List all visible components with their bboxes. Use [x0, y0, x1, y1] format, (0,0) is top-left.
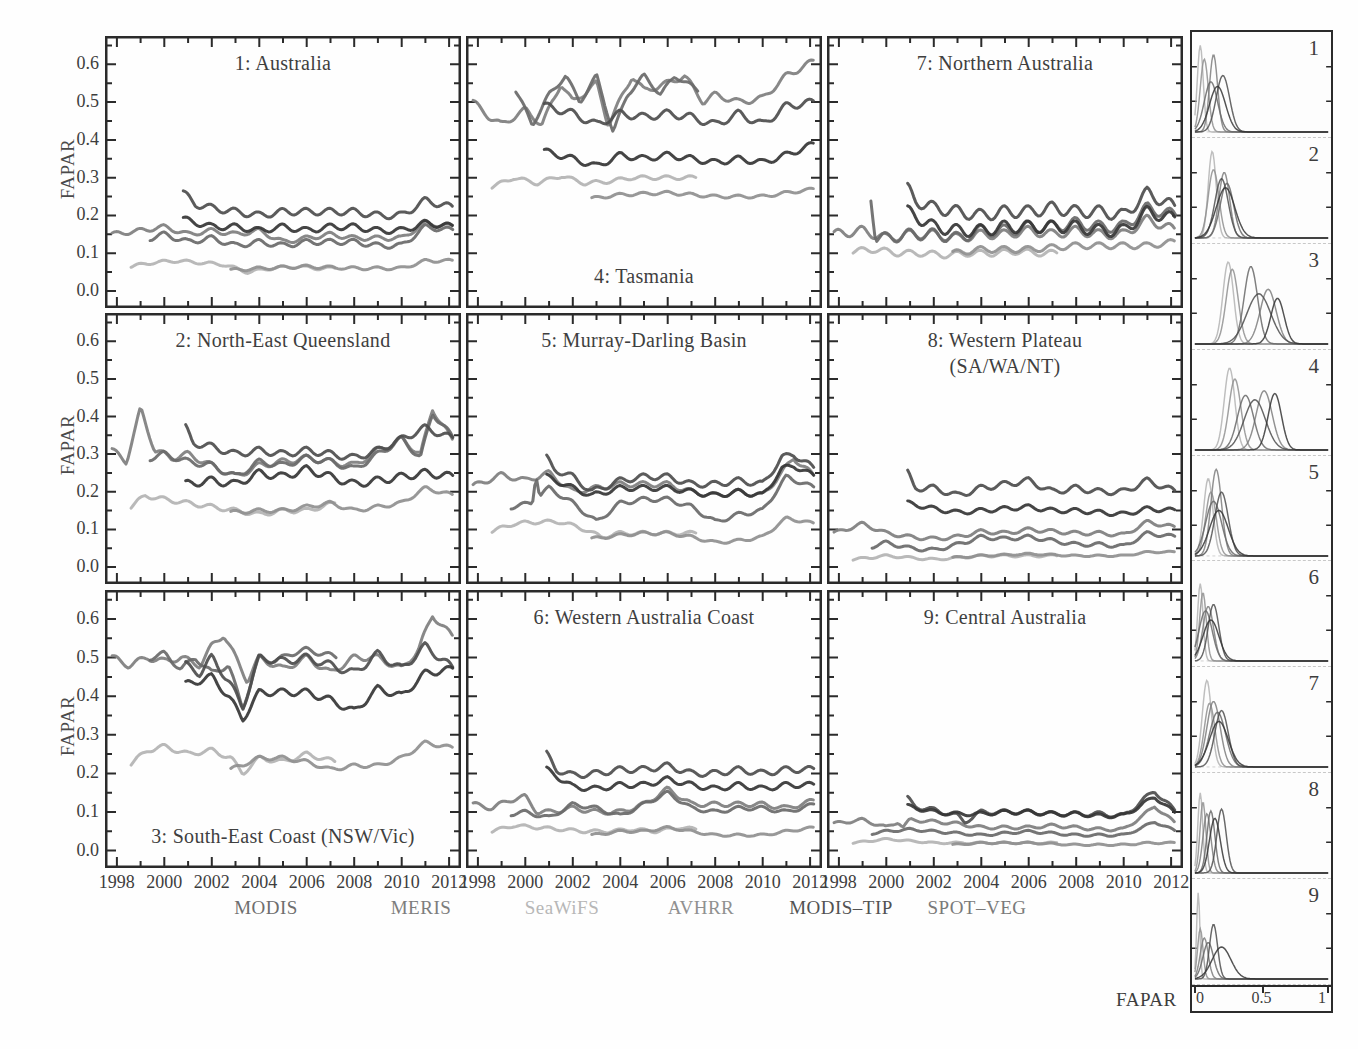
density-panel-6: 6	[1192, 561, 1331, 667]
series-MODIS-TIP	[908, 501, 1175, 516]
series-MERIS	[592, 517, 814, 543]
timeseries-panel-5-murray-darling: 5: Murray-Darling Basin	[466, 313, 822, 584]
density-panel-number: 2	[1309, 142, 1320, 167]
series-MODIS-TIP	[186, 667, 453, 722]
series-MERIS	[953, 842, 1175, 846]
timeseries-plot	[105, 313, 461, 584]
timeseries-panel-2-ne-queensland: 2: North-East Queensland	[105, 313, 461, 584]
timeseries-plot	[466, 590, 822, 868]
x-tick-label: 2004	[233, 872, 285, 893]
y-tick-label: 0.2	[59, 204, 99, 225]
series-MODIS-TIP	[547, 767, 814, 791]
density-curve-MERIS	[1195, 59, 1328, 132]
density-curve-SPOT-VEG	[1195, 943, 1328, 979]
legend-item-modis-tip: MODIS–TIP	[789, 897, 893, 919]
timeseries-plot	[827, 313, 1183, 584]
series-MERIS	[231, 487, 452, 514]
density-xtick-1: 1	[1318, 989, 1326, 1007]
y-tick-label: 0.1	[59, 242, 99, 263]
density-xtick-05: 0.5	[1252, 989, 1272, 1007]
legend-item-avhrr: AVHRR	[668, 897, 735, 919]
density-curve-MODIS-TIP	[1195, 188, 1328, 238]
density-curve-AVHRR	[1195, 55, 1328, 132]
series-MODIS	[183, 191, 452, 219]
series-SPOT-VEG	[872, 532, 1175, 551]
timeseries-plot	[827, 590, 1183, 868]
density-curve-SeaWiFS	[1195, 584, 1328, 661]
series-AVHRR	[473, 460, 813, 497]
density-panel-2: 2	[1192, 138, 1331, 244]
series-SeaWiFS	[492, 520, 696, 538]
density-curve-AVHRR	[1195, 938, 1328, 979]
timeseries-panel-8-western-plateau: 8: Western Plateau (SA/WA/NT)	[827, 313, 1183, 584]
density-x-axis: 0 0.5 1	[1192, 985, 1331, 1011]
series-AVHRR	[112, 617, 452, 682]
tick-1	[1327, 987, 1329, 993]
series-MODIS-TIP	[183, 217, 452, 234]
series-MODIS	[547, 751, 814, 777]
timeseries-plot	[105, 590, 461, 868]
y-tick-label: 0.0	[59, 556, 99, 577]
density-curve-AVHRR	[1195, 814, 1328, 873]
timeseries-plot	[105, 36, 461, 308]
x-tick-label: 2006	[642, 872, 694, 893]
series-MERIS	[592, 826, 814, 836]
series-AVHRR	[834, 215, 1174, 241]
density-x-axis-label: FAPAR	[1116, 989, 1177, 1011]
sensor-legend: MODIS MERIS SeaWiFS AVHRR MODIS–TIP SPOT…	[0, 897, 1190, 925]
x-tick-label: 2004	[955, 872, 1007, 893]
timeseries-panel-9-central-australia: 9: Central Australia	[827, 590, 1183, 868]
x-tick-label: 2002	[547, 872, 599, 893]
x-tick-label: 2008	[1050, 872, 1102, 893]
timeseries-plot	[466, 313, 822, 584]
density-strip: 1 2 3 4 5 6 7 8 9 0 0.5 1	[1190, 30, 1333, 1013]
y-tick-label: 0.0	[59, 840, 99, 861]
density-panel-number: 6	[1309, 565, 1320, 590]
x-tick-label: 2000	[499, 872, 551, 893]
series-MODIS	[908, 793, 1175, 824]
x-tick-label: 2008	[328, 872, 380, 893]
x-tick-label: 2000	[860, 872, 912, 893]
y-tick-label: 0.6	[59, 330, 99, 351]
density-curve-MODIS	[1195, 925, 1328, 979]
series-AVHRR	[112, 409, 452, 475]
series-SeaWiFS	[131, 260, 335, 273]
series-MODIS-TIP	[186, 466, 453, 487]
x-tick-label: 2002	[186, 872, 238, 893]
series-MERIS	[231, 259, 452, 270]
density-curve-MERIS	[1195, 379, 1328, 450]
density-curve-SPOT-VEG	[1195, 713, 1328, 768]
density-panel-number: 8	[1309, 777, 1320, 802]
x-tick-label: 1998	[452, 872, 504, 893]
density-curve-MODIS	[1195, 711, 1328, 767]
timeseries-plot	[827, 36, 1183, 308]
y-tick-label: 0.1	[59, 518, 99, 539]
density-panel-number: 9	[1309, 883, 1320, 908]
timeseries-panel-6-wa-coast: 6: Western Australia Coast	[466, 590, 822, 868]
series-AVHRR	[473, 60, 813, 125]
y-tick-label: 0.5	[59, 647, 99, 668]
density-panel-7: 7	[1192, 667, 1331, 773]
x-tick-label: 2008	[689, 872, 741, 893]
density-xtick-0: 0	[1196, 989, 1204, 1007]
legend-item-modis: MODIS	[234, 897, 298, 919]
legend-item-meris: MERIS	[391, 897, 452, 919]
y-tick-label: 0.4	[59, 685, 99, 706]
density-curve-MODIS	[1195, 76, 1328, 132]
series-MERIS	[953, 551, 1175, 557]
x-tick-label: 2010	[737, 872, 789, 893]
density-panel-8: 8	[1192, 773, 1331, 879]
density-panel-number: 3	[1309, 248, 1320, 273]
y-tick-label: 0.5	[59, 91, 99, 112]
y-tick-label: 0.4	[59, 129, 99, 150]
x-tick-label: 1998	[91, 872, 143, 893]
y-tick-label: 0.2	[59, 762, 99, 783]
y-tick-label: 0.3	[59, 167, 99, 188]
y-tick-label: 0.2	[59, 481, 99, 502]
fapar-figure: FAPAR FAPAR FAPAR 1: Australia 4: Tasman…	[0, 0, 1358, 1049]
density-panel-number: 5	[1309, 460, 1320, 485]
x-tick-label: 2006	[281, 872, 333, 893]
density-curve-MODIS-TIP	[1195, 393, 1328, 449]
density-curve-AVHRR	[1195, 607, 1328, 661]
series-MODIS	[908, 183, 1175, 219]
